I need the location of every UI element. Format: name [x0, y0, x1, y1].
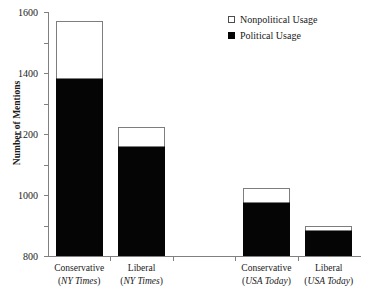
- bar-4: [305, 226, 352, 256]
- bar-segment-political: [118, 146, 165, 256]
- category-label-line2: (USA Today): [235, 275, 297, 288]
- legend-item-political: Political Usage: [228, 30, 317, 41]
- y-tick-mark: 200: [44, 226, 48, 227]
- category-label-line1: Conservative: [48, 262, 110, 275]
- y-axis-title: Number of Mentions: [12, 63, 22, 183]
- bar-segment-political: [243, 202, 290, 256]
- legend-label-nonpolitical: Nonpolitical Usage: [240, 14, 317, 25]
- x-category-label-1: Conservative(NY Times): [48, 262, 110, 287]
- y-tick-mark: 1600: [44, 12, 48, 13]
- legend-item-nonpolitical: Nonpolitical Usage: [228, 14, 317, 25]
- x-tick-mark: [173, 256, 174, 261]
- y-tick-mark: 400: [44, 195, 48, 196]
- category-label-line1: Liberal: [298, 262, 360, 275]
- y-tick-label: 1400: [18, 68, 38, 79]
- x-category-label-3: Conservative(USA Today): [235, 262, 297, 287]
- y-tick-label: 1200: [18, 129, 38, 140]
- bar-chart: Number of Mentions 160014001200100080060…: [0, 0, 370, 295]
- category-label-line1: Conservative: [235, 262, 297, 275]
- y-tick-label: 800: [23, 251, 38, 262]
- plot-area: 16001400120010008006004002000: [48, 12, 360, 256]
- x-tick-mark: [298, 256, 299, 261]
- x-category-label-2: Liberal(NY Times): [110, 262, 172, 287]
- y-tick-mark: 800: [44, 134, 48, 135]
- x-category-label-4: Liberal(USA Today): [298, 262, 360, 287]
- x-tick-mark: [110, 256, 111, 261]
- category-label-line1: Liberal: [110, 262, 172, 275]
- bar-segment-political: [56, 78, 103, 256]
- y-tick-label: 1000: [18, 190, 38, 201]
- y-tick-mark: 600: [44, 165, 48, 166]
- bar-1: [56, 21, 103, 256]
- category-label-line2: (NY Times): [110, 275, 172, 288]
- chart-legend: Nonpolitical Usage Political Usage: [228, 14, 317, 46]
- y-tick-mark: 0: [44, 256, 48, 257]
- y-tick-label: 1600: [18, 7, 38, 18]
- x-tick-mark: [235, 256, 236, 261]
- category-label-line2: (NY Times): [48, 275, 110, 288]
- category-label-line2: (USA Today): [298, 275, 360, 288]
- legend-swatch-filled-icon: [228, 32, 235, 39]
- y-tick-mark: 1200: [44, 73, 48, 74]
- y-tick-mark: 1400: [44, 43, 48, 44]
- bar-3: [243, 188, 290, 256]
- x-axis-line: [48, 256, 361, 257]
- y-tick-mark: 1000: [44, 104, 48, 105]
- legend-label-political: Political Usage: [240, 30, 301, 41]
- bar-2: [118, 127, 165, 256]
- legend-swatch-hollow-icon: [228, 16, 235, 23]
- bar-segment-political: [305, 230, 352, 256]
